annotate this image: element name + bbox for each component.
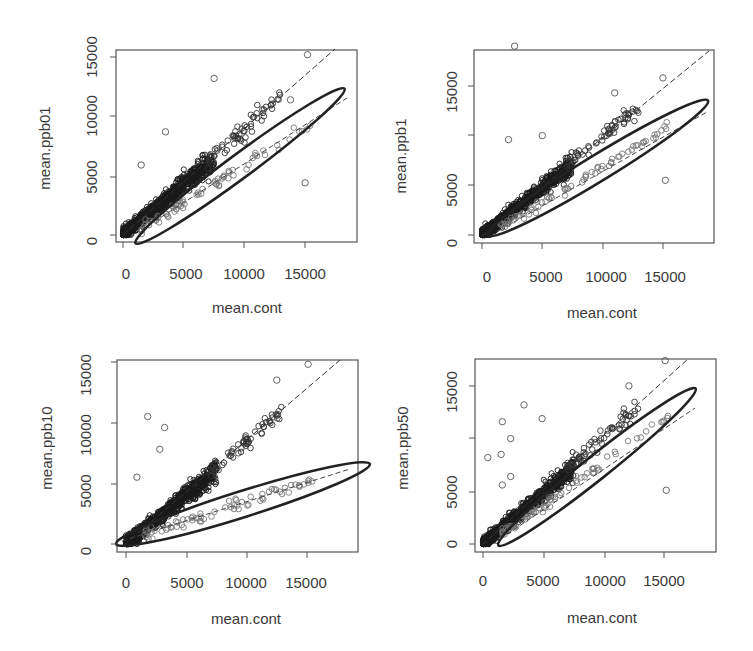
x-axis-title: mean.cont [211, 610, 282, 627]
confidence-ellipse [491, 379, 703, 555]
y-tick-label: 5000 [77, 474, 94, 507]
scatter-panel-ppb50: 0 5000 10000 15000 0 5000 15000 mean.con… [376, 330, 753, 651]
x-tick-label: 15000 [644, 268, 686, 285]
y-tick-label: 10000 [77, 414, 94, 456]
scatter-panel-ppb1: 0 5000 10000 15000 0 5000 15000 mean.con… [376, 0, 753, 330]
y-tick-label: 15000 [83, 36, 100, 78]
confidence-ellipse [112, 452, 374, 557]
x-axis [123, 242, 305, 248]
x-tick-label: 0 [479, 572, 487, 589]
x-tick-label: 10000 [584, 572, 626, 589]
x-tick-label: 15000 [643, 572, 685, 589]
scatter-panel-ppb10: 0 5000 10000 15000 0 5000 10000 15000 me… [0, 320, 376, 651]
x-tick-label: 0 [122, 265, 130, 282]
x-tick-label: 15000 [285, 574, 327, 591]
scatter-points [120, 52, 313, 238]
y-tick-label: 0 [443, 540, 460, 548]
x-tick-label: 10000 [225, 574, 267, 591]
reference-dashed-line [124, 360, 340, 545]
confidence-ellipse [481, 90, 715, 247]
y-tick-label: 10000 [83, 95, 100, 137]
x-tick-label: 10000 [223, 265, 265, 282]
scatter-points [123, 361, 315, 546]
x-axis [483, 552, 664, 558]
x-tick-label: 5000 [529, 268, 562, 285]
y-axis-title: mean.ppb1 [392, 118, 409, 193]
reference-dashed-line [482, 359, 688, 545]
y-tick-label: 5000 [443, 475, 460, 508]
y-tick-label: 15000 [443, 71, 460, 113]
x-tick-label: 10000 [585, 268, 627, 285]
y-axis-title: mean.ppb50 [394, 406, 411, 489]
x-axis [126, 552, 307, 558]
y-axis-title: mean.ppb10 [38, 406, 55, 489]
y-axis [110, 57, 116, 235]
inner-dashed-line [141, 98, 347, 230]
scatter-points [479, 43, 669, 238]
y-axis [111, 362, 117, 544]
x-axis-title: mean.cont [212, 299, 283, 316]
scatter-points [480, 357, 670, 546]
confidence-ellipse [128, 79, 351, 253]
x-tick-label: 5000 [526, 572, 559, 589]
y-axis [468, 86, 474, 235]
y-tick-label: 15000 [77, 354, 94, 396]
x-axis-title: mean.cont [567, 304, 638, 321]
y-tick-label: 0 [443, 239, 460, 247]
x-tick-label: 0 [483, 268, 491, 285]
y-tick-label: 5000 [83, 160, 100, 193]
y-tick-label: 0 [77, 547, 94, 555]
x-tick-label: 0 [122, 574, 130, 591]
x-tick-label: 5000 [169, 265, 202, 282]
y-tick-label: 15000 [443, 371, 460, 413]
x-axis-title: mean.cont [567, 609, 638, 626]
x-tick-label: 15000 [284, 265, 326, 282]
x-axis [482, 243, 663, 249]
y-axis [469, 386, 475, 544]
scatter-panel-ppb01: 0 5000 10000 15000 0 5000 10000 15000 me… [0, 0, 376, 320]
y-axis-title: mean.ppb01 [36, 106, 53, 189]
y-tick-label: 0 [83, 237, 100, 245]
inner-dashed-line [122, 469, 350, 541]
x-tick-label: 5000 [170, 574, 203, 591]
y-tick-label: 5000 [443, 173, 460, 206]
